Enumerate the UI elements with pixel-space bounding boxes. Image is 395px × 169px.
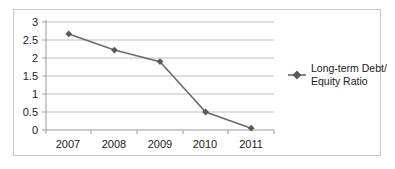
data-point-2008 [111, 47, 118, 54]
legend-label-line2: Equity Ratio [311, 75, 368, 87]
chart-legend: Long-term Debt/ Equity Ratio [288, 62, 387, 87]
y-tick-label: 2 [32, 52, 38, 64]
x-axis-ticks [46, 130, 274, 134]
series-line-long-term-debt-equity-ratio [69, 34, 251, 128]
y-axis-tick-labels: 3 2.5 2 1.5 1 0.5 0 [23, 16, 38, 136]
chart-container: 3 2.5 2 1.5 1 0.5 0 2007 2008 2009 2010 … [0, 0, 395, 169]
x-tick-label: 2008 [102, 138, 126, 150]
data-point-2011 [248, 125, 255, 132]
y-tick-label: 2.5 [23, 34, 38, 46]
y-tick-label: 3 [32, 16, 38, 28]
x-axis-tick-labels: 2007 2008 2009 2010 2011 [56, 138, 263, 150]
y-tick-label: 1.5 [23, 70, 38, 82]
x-tick-label: 2010 [193, 138, 217, 150]
x-tick-label: 2011 [239, 138, 263, 150]
diamond-marker [293, 71, 302, 80]
x-tick-label: 2009 [148, 138, 172, 150]
y-tick-label: 0 [32, 124, 38, 136]
y-tick-label: 0.5 [23, 106, 38, 118]
legend-label-line1: Long-term Debt/ [311, 62, 387, 74]
y-tick-label: 1 [32, 88, 38, 100]
data-point-2007 [65, 30, 72, 37]
x-tick-label: 2007 [56, 138, 80, 150]
series-markers [65, 30, 254, 131]
y-axis-ticks [42, 22, 46, 130]
gridlines [46, 22, 274, 112]
line-chart-plot: 3 2.5 2 1.5 1 0.5 0 2007 2008 2009 2010 … [0, 0, 395, 169]
